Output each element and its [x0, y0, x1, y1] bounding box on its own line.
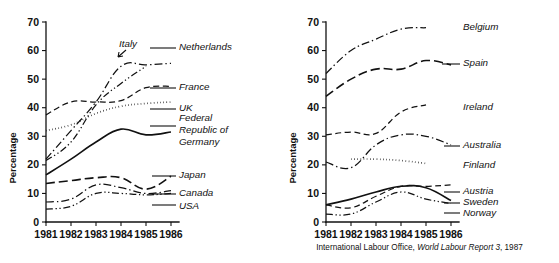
y-tick-60: 60	[27, 44, 39, 56]
x-tick-1983: 1983	[84, 228, 108, 240]
y-tick-70: 70	[307, 16, 319, 28]
y-tick-30: 30	[27, 130, 39, 142]
x-tick-1983: 1983	[364, 228, 388, 240]
series-line-japan	[46, 176, 171, 189]
x-tick-1982: 1982	[59, 228, 83, 240]
series-label-federal-republic-of-germany-line1: Federal	[179, 112, 213, 123]
series-label-austria: Austria	[462, 185, 494, 196]
series-label-italy: Italy	[119, 38, 138, 49]
series-label-japan: Japan	[178, 169, 206, 180]
chart-panel-right: 010203040506070198119821983198419851986P…	[280, 0, 559, 263]
y-tick-40: 40	[27, 101, 39, 113]
x-tick-1984: 1984	[109, 228, 133, 240]
series-label-spain: Spain	[463, 57, 488, 68]
line-chart-left: 010203040506070198119821983198419851986P…	[0, 0, 279, 263]
y-axis-title: Percentage	[7, 132, 18, 183]
series-line-sweden	[326, 186, 451, 205]
series-label-belgium: Belgium	[463, 21, 498, 32]
y-tick-20: 20	[307, 158, 319, 170]
x-tick-1985: 1985	[134, 228, 158, 240]
series-line-federal-republic-of-germany	[46, 129, 171, 175]
series-line-france	[46, 86, 171, 115]
y-tick-40: 40	[307, 101, 319, 113]
series-label-finland: Finland	[463, 159, 496, 170]
line-chart-right: 010203040506070198119821983198419851986P…	[280, 0, 559, 263]
series-label-australia: Australia	[462, 139, 502, 150]
series-line-ireland	[326, 105, 426, 135]
series-line-canada	[46, 184, 171, 202]
series-label-federal-republic-of-germany-line2: Republic of	[179, 124, 229, 135]
series-label-sweden: Sweden	[463, 196, 498, 207]
y-tick-50: 50	[27, 73, 39, 85]
series-label-netherlands: Netherlands	[179, 41, 232, 52]
series-line-finland	[351, 159, 426, 163]
series-label-usa: USA	[179, 200, 200, 211]
series-label-canada: Canada	[179, 187, 214, 198]
y-tick-0: 0	[33, 216, 39, 228]
x-tick-1986: 1986	[159, 228, 183, 240]
y-tick-30: 30	[307, 130, 319, 142]
x-tick-1986: 1986	[439, 228, 463, 240]
y-tick-10: 10	[307, 187, 319, 199]
y-tick-20: 20	[27, 158, 39, 170]
y-tick-50: 50	[307, 73, 319, 85]
source-note-title: World Labour Report 3	[417, 243, 500, 252]
series-line-netherlands	[46, 63, 171, 159]
x-tick-1981: 1981	[314, 228, 338, 240]
source-note-prefix: International Labour Office,	[316, 243, 415, 252]
source-note-suffix: , 1987	[500, 243, 523, 252]
chart-panel-left: 010203040506070198119821983198419851986P…	[0, 0, 279, 263]
x-tick-1982: 1982	[339, 228, 363, 240]
series-line-spain	[326, 60, 451, 96]
leader-arrow-italy	[118, 50, 126, 57]
series-line-norway	[326, 192, 451, 215]
series-label-norway: Norway	[463, 207, 497, 218]
x-tick-1985: 1985	[414, 228, 438, 240]
series-label-france: France	[179, 81, 210, 92]
y-axis-title: Percentage	[287, 132, 298, 183]
series-label-federal-republic-of-germany-line3: Germany	[179, 136, 220, 147]
series-label-ireland: Ireland	[463, 101, 494, 112]
y-tick-0: 0	[313, 216, 319, 228]
y-tick-70: 70	[27, 16, 39, 28]
series-line-italy	[46, 66, 146, 160]
source-note: International Labour Office, World Labou…	[280, 243, 559, 252]
y-tick-60: 60	[307, 44, 319, 56]
x-tick-1981: 1981	[34, 228, 58, 240]
series-line-australia	[326, 134, 451, 169]
x-tick-1984: 1984	[389, 228, 413, 240]
y-tick-10: 10	[27, 187, 39, 199]
figure-root: 010203040506070198119821983198419851986P…	[0, 0, 559, 263]
